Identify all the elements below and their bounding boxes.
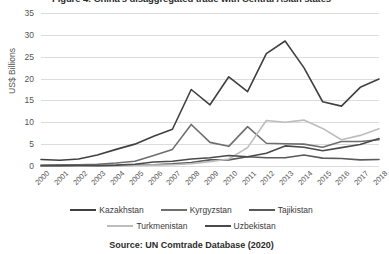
x-tick-label: 2016 <box>334 169 352 187</box>
legend-row: KazakhstanKyrgyzstanTajikistan <box>0 202 383 218</box>
legend-row: TurkmenistanUzbekistan <box>0 218 383 234</box>
legend-label: Uzbekistan <box>234 221 276 231</box>
x-tick-label: 2004 <box>108 169 126 187</box>
x-tick-label: 2001 <box>52 169 70 187</box>
legend-swatch-tajikistan <box>249 209 275 211</box>
legend-label: Turkmenistan <box>136 221 187 231</box>
legend-swatch-kyrgyzstan <box>161 209 187 211</box>
y-tick-label: 35 <box>25 9 34 17</box>
y-tick-label: 20 <box>25 75 34 83</box>
y-axis-title: US$ Billions <box>7 11 17 131</box>
x-tick-label: 2005 <box>127 169 145 187</box>
legend-swatch-uzbekistan <box>205 225 231 227</box>
chart-legend: KazakhstanKyrgyzstanTajikistanTurkmenist… <box>0 202 383 234</box>
x-tick-label: 2013 <box>277 169 295 187</box>
y-tick-label: 25 <box>25 53 34 61</box>
y-axis-labels: 05101520253035 <box>0 13 34 166</box>
x-tick-label: 2012 <box>259 169 277 187</box>
x-axis-labels: 2000200120022003200420052006200720082009… <box>41 168 379 198</box>
legend-item-kazakhstan[interactable]: Kazakhstan <box>70 205 143 215</box>
x-tick-label: 2017 <box>352 169 370 187</box>
y-tick-label: 30 <box>25 31 34 39</box>
x-tick-label: 2009 <box>202 169 220 187</box>
x-tick-label: 2015 <box>315 169 333 187</box>
x-tick-label: 2008 <box>183 169 201 187</box>
series-lines <box>41 13 379 166</box>
legend-item-uzbekistan[interactable]: Uzbekistan <box>205 221 276 231</box>
x-tick-label: 2014 <box>296 169 314 187</box>
legend-item-turkmenistan[interactable]: Turkmenistan <box>107 221 187 231</box>
x-tick-label: 2011 <box>240 169 258 187</box>
figure-source: Source: UN Comtrade Database (2020) <box>0 240 383 250</box>
x-tick-label: 2007 <box>165 169 183 187</box>
x-tick-label: 2006 <box>146 169 164 187</box>
figure-title: Figure 4: China's disaggregated trade wi… <box>0 0 383 4</box>
legend-swatch-kazakhstan <box>70 209 96 211</box>
x-tick-label: 2000 <box>33 169 51 187</box>
legend-label: Kyrgyzstan <box>190 205 232 215</box>
x-tick-label: 2010 <box>221 169 239 187</box>
x-tick-label: 2003 <box>90 169 108 187</box>
plot-area <box>41 13 379 166</box>
y-tick-label: 15 <box>25 96 34 104</box>
x-tick-label: 2018 <box>371 169 389 187</box>
y-tick-label: 5 <box>29 140 34 148</box>
legend-item-tajikistan[interactable]: Tajikistan <box>249 205 313 215</box>
legend-item-kyrgyzstan[interactable]: Kyrgyzstan <box>161 205 232 215</box>
y-tick-label: 10 <box>25 118 34 126</box>
legend-label: Tajikistan <box>278 205 313 215</box>
x-tick-label: 2002 <box>71 169 89 187</box>
legend-swatch-turkmenistan <box>107 225 133 227</box>
y-tick-label: 0 <box>29 162 34 170</box>
legend-label: Kazakhstan <box>99 205 143 215</box>
